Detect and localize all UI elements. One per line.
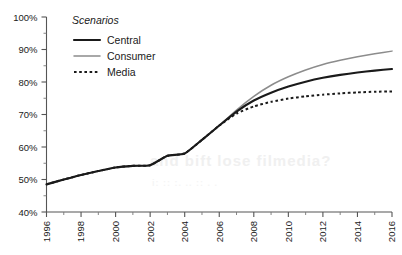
x-axis-tick-label: 2002	[145, 221, 156, 242]
y-axis-tick-label: 70%	[18, 109, 38, 120]
chart-legend: ScenariosCentralConsumerMedia	[72, 14, 156, 78]
y-axis-tick-label: 40%	[18, 207, 38, 218]
legend-label-consumer: Consumer	[107, 50, 156, 62]
line-chart-canvas: 40%50%60%70%80%90%100% 19961998200020022…	[0, 0, 402, 255]
x-axis-tick-label: 2012	[317, 221, 328, 242]
data-series-group	[47, 51, 393, 184]
y-axis: 40%50%60%70%80%90%100%	[13, 12, 46, 218]
x-axis-tick-label: 2016	[386, 221, 397, 242]
y-axis-tick-label: 60%	[18, 142, 38, 153]
y-axis-tick-label: 90%	[18, 44, 38, 55]
chart-figure: and bift lose filmedia? i: :: :. .. :: .…	[0, 0, 402, 255]
series-line-central	[47, 69, 393, 184]
y-axis-tick-label: 50%	[18, 174, 38, 185]
x-axis-tick-label: 2014	[352, 221, 363, 242]
x-axis: 1996199820002002200420062008201020122014…	[41, 212, 398, 242]
x-axis-tick-label: 2008	[248, 221, 259, 242]
x-axis-tick-label: 2004	[179, 221, 190, 242]
x-axis-tick-label: 2006	[214, 221, 225, 242]
series-line-consumer	[47, 51, 393, 184]
x-axis-tick-label: 1996	[41, 221, 52, 242]
legend-title: Scenarios	[72, 14, 119, 26]
legend-label-central: Central	[107, 34, 141, 46]
x-axis-tick-label: 1998	[75, 221, 86, 242]
legend-label-media: Media	[107, 66, 136, 78]
x-axis-tick-label: 2000	[110, 221, 121, 242]
x-axis-tick-label: 2010	[283, 221, 294, 242]
y-axis-tick-label: 80%	[18, 77, 38, 88]
y-axis-tick-label: 100%	[13, 12, 38, 23]
